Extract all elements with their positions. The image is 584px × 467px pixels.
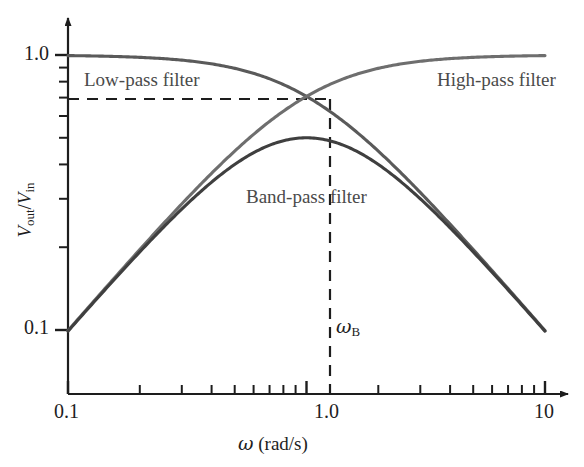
x-axis-title: ω (rad/s): [238, 432, 308, 455]
y-axis-title-denominator-subscript: in: [22, 182, 37, 192]
y-axis-title-numerator-subscript: out: [22, 209, 37, 226]
omega-b-subscript: B: [352, 324, 361, 339]
x-tick-label-mid: 1.0: [314, 400, 339, 423]
bandpass-curve: [68, 138, 545, 331]
y-tick-label-top: 1.0: [24, 42, 49, 65]
y-tick-label-bottom: 0.1: [24, 316, 49, 339]
filter-response-figure: 1.0 0.1 0.1 1.0 10 Low-pass filter High-…: [0, 0, 584, 467]
x-axis-ticks: [68, 381, 545, 394]
y-axis-ticks: [55, 55, 68, 330]
x-tick-label-right: 10: [534, 400, 554, 423]
y-axis-title: Vout/Vin: [14, 182, 38, 237]
bandpass-filter-label: Band-pass filter: [246, 186, 367, 208]
x-axis-title-omega: ω: [238, 432, 254, 454]
highpass-filter-label: High-pass filter: [437, 69, 556, 91]
x-axis-title-units: (rad/s): [254, 433, 308, 454]
x-tick-label-left: 0.1: [54, 400, 79, 423]
crossover-guides: [68, 99, 330, 394]
omega-b-symbol: ω: [336, 315, 352, 337]
y-axis-title-slash: /: [14, 204, 35, 209]
lowpass-filter-label: Low-pass filter: [84, 69, 200, 91]
y-axis-title-numerator: V: [14, 226, 35, 238]
y-axis-title-denominator: V: [14, 193, 35, 205]
y-axis-title-wrapper: Vout/Vin: [6, 135, 46, 285]
omega-b-annotation: ωB: [336, 315, 360, 340]
